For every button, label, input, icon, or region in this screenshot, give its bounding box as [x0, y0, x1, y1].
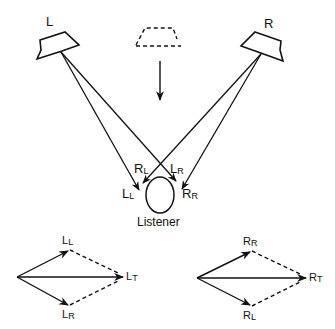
- label-lr-sub: R: [177, 166, 184, 176]
- path-ll: [61, 52, 139, 190]
- label-ll-sub: L: [129, 191, 134, 201]
- lv-result-sub: T: [132, 273, 138, 283]
- rv-bottom-sub: L: [251, 312, 256, 322]
- right-vector-bottom-label: RL: [243, 310, 256, 321]
- rv-bottom-main: R: [243, 309, 251, 321]
- diagram-lines: [0, 0, 335, 329]
- rv-result-main: R: [309, 271, 317, 283]
- label-rl-sub: L: [143, 166, 148, 176]
- path-rr: [182, 54, 261, 189]
- listener-label: Listener: [137, 216, 180, 228]
- rv-result-sub: T: [317, 274, 323, 284]
- listener-head: [146, 177, 174, 213]
- left-speaker-label: L: [46, 15, 53, 28]
- left-vector-top-label: LL: [62, 235, 73, 246]
- left-vector-diagram: [17, 250, 123, 305]
- phantom-speaker-icon: [136, 28, 181, 46]
- lv-top-sub: L: [68, 237, 73, 247]
- label-ll: LL: [122, 187, 134, 200]
- stereo-phantom-image-diagram: L R RL LR LL RR Listener LL LR LT RR RL …: [0, 0, 335, 329]
- lv-bottom-sub: R: [68, 311, 75, 321]
- path-lr: [61, 52, 176, 181]
- label-rl: RL: [134, 162, 148, 175]
- label-rr: RR: [182, 187, 198, 200]
- label-rr-sub: R: [191, 191, 198, 201]
- label-rl-main: R: [134, 161, 143, 176]
- left-vector-result-label: LT: [126, 271, 138, 282]
- right-speaker-icon: [241, 32, 283, 61]
- rv-top-main: R: [243, 235, 251, 247]
- right-speaker-label: R: [264, 17, 273, 30]
- rv-top-sub: R: [251, 238, 258, 248]
- label-rr-main: R: [182, 186, 191, 201]
- left-vector-bottom-label: LR: [62, 309, 75, 320]
- label-lr: LR: [170, 162, 184, 175]
- right-vector-result-label: RT: [309, 272, 322, 283]
- right-vector-diagram: [197, 251, 306, 306]
- right-vector-top-label: RR: [243, 236, 257, 247]
- left-speaker-icon: [37, 32, 79, 59]
